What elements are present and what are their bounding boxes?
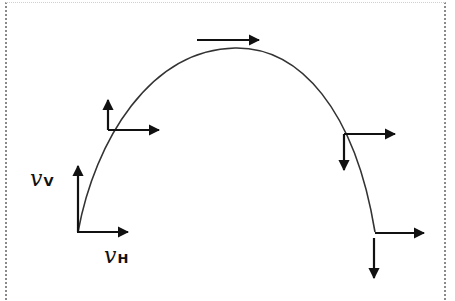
velocity-components-launch xyxy=(77,166,128,232)
horizontal-velocity-label: vH xyxy=(104,245,128,267)
vertical-subscript: V xyxy=(43,174,53,189)
trajectory-curve xyxy=(78,48,375,232)
horizontal-subscript: H xyxy=(117,251,128,266)
velocity-symbol: v xyxy=(30,166,42,191)
velocity-symbol: v xyxy=(104,243,116,268)
velocity-components-rising xyxy=(108,100,159,130)
velocity-components-landing xyxy=(374,233,424,278)
vertical-velocity-label: vV xyxy=(30,168,54,190)
velocity-components-falling xyxy=(344,134,395,170)
projectile-diagram xyxy=(0,0,455,301)
